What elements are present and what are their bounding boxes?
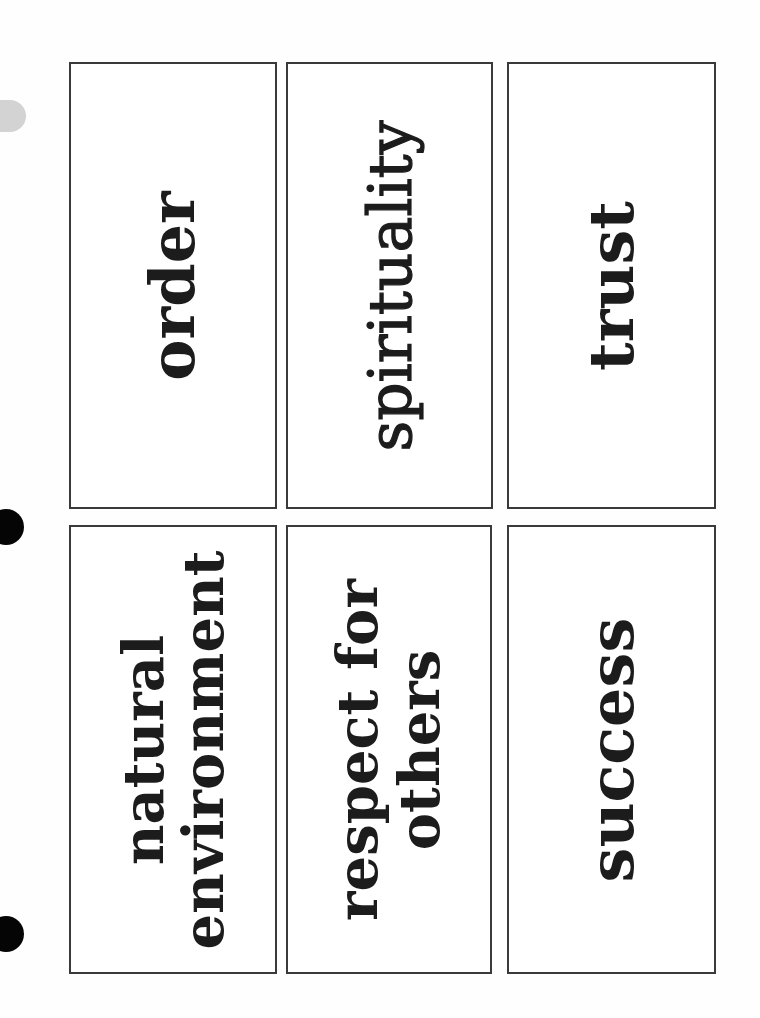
word-card-respect-for-others: respect for others: [286, 525, 492, 974]
binder-hole-middle-icon: [0, 509, 24, 545]
card-label: order: [142, 191, 204, 380]
word-card-trust: trust: [507, 62, 716, 509]
word-card-natural-environment: natural environment: [69, 525, 277, 974]
binder-hole-top-icon: [0, 100, 26, 132]
card-label-line: others: [389, 579, 451, 921]
card-label: natural environment: [113, 550, 234, 949]
card-label-line: trust: [581, 201, 643, 371]
word-card-success: success: [507, 525, 716, 974]
card-label-line: success: [581, 617, 643, 882]
card-label-line: environment: [173, 550, 233, 949]
card-label: trust: [581, 201, 643, 371]
card-label-line: spirituality: [360, 120, 420, 451]
card-label: success: [581, 617, 643, 882]
card-label-line: order: [142, 191, 204, 380]
card-label-line: respect for: [327, 579, 389, 921]
card-label-line: natural: [113, 550, 173, 949]
word-card-order: order: [69, 62, 277, 509]
word-card-spirituality: spirituality: [286, 62, 493, 509]
worksheet-page: order spirituality trust natural environ…: [0, 0, 760, 1018]
card-label: respect for others: [327, 579, 450, 921]
card-label: spirituality: [360, 120, 420, 451]
binder-hole-bottom-icon: [0, 916, 24, 952]
